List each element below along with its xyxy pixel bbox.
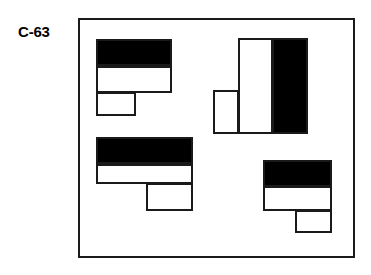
figure-top-left-black-band [96,39,172,66]
figure-top-right-white-band [238,38,273,134]
figure-bottom-left-white-foot [146,183,193,211]
figure-sheet: C-63 [0,0,371,275]
figure-top-right-white-foot [213,90,239,134]
figure-bottom-right-white-band [263,186,332,211]
figure-top-left-white-band [96,66,172,93]
figure-top-left-white-foot [96,92,136,116]
figure-bottom-right-white-foot [295,210,332,233]
item-label: C-63 [18,24,50,39]
figure-bottom-left-white-band [96,164,193,184]
figure-bottom-left-black-band [96,137,193,164]
figure-top-right-black-band [272,38,308,134]
figure-bottom-right-black-band [263,160,332,187]
